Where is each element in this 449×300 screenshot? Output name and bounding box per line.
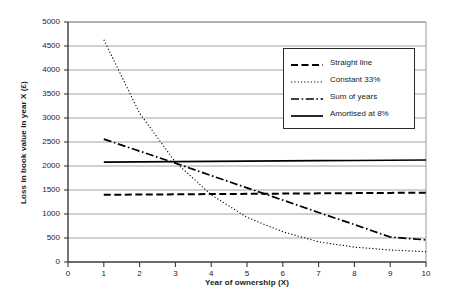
legend-item[interactable]: Straight line (290, 54, 408, 71)
legend-item-label: Straight line (330, 58, 372, 67)
legend-item-label: Amortised at 8% (330, 109, 389, 118)
legend-line-swatch (290, 57, 324, 69)
legend-line-swatch (290, 108, 324, 120)
x-tick-label: 2 (128, 269, 152, 278)
x-tick-label: 10 (414, 269, 438, 278)
x-tick-label: 1 (92, 269, 116, 278)
chart-container: Loss in book value in year X (£) Year of… (0, 0, 449, 300)
legend-item[interactable]: Amortised at 8% (290, 105, 408, 122)
x-tick-label: 3 (163, 269, 187, 278)
series-line-sum-of-years (104, 139, 426, 240)
x-tick-label: 6 (271, 269, 295, 278)
x-tick-label: 5 (235, 269, 259, 278)
y-tick-label: 1500 (26, 185, 60, 194)
y-tick-label: 0 (26, 257, 60, 266)
x-tick-label: 4 (199, 269, 223, 278)
x-tick-label: 9 (378, 269, 402, 278)
legend-item-label: Constant 33% (330, 75, 380, 84)
legend-item[interactable]: Sum of years (290, 88, 408, 105)
y-tick-label: 4000 (26, 65, 60, 74)
series-line-amortised-at-8 (104, 160, 426, 162)
legend-line-swatch (290, 74, 324, 86)
x-tick-label: 0 (56, 269, 80, 278)
y-tick-label: 1000 (26, 209, 60, 218)
y-tick-label: 5000 (26, 17, 60, 26)
legend-line-swatch (290, 91, 324, 103)
legend-item[interactable]: Constant 33% (290, 71, 408, 88)
x-tick-label: 7 (307, 269, 331, 278)
y-tick-label: 2000 (26, 161, 60, 170)
y-tick-label: 3000 (26, 113, 60, 122)
y-tick-label: 2500 (26, 137, 60, 146)
y-tick-label: 500 (26, 233, 60, 242)
chart-legend: Straight lineConstant 33%Sum of yearsAmo… (283, 48, 415, 129)
plot-area (0, 0, 449, 300)
y-tick-label: 3500 (26, 89, 60, 98)
x-tick-label: 8 (342, 269, 366, 278)
legend-item-label: Sum of years (330, 92, 377, 101)
y-tick-label: 4500 (26, 41, 60, 50)
